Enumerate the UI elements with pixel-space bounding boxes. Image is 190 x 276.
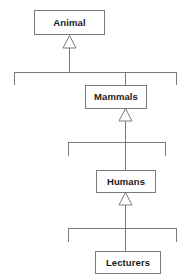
connector-bracket-humans-children: [69, 229, 177, 243]
class-label-animal: Animal: [53, 18, 85, 28]
class-box-mammals[interactable]: Mammals: [85, 85, 147, 109]
class-box-animal[interactable]: Animal: [34, 10, 105, 35]
inheritance-arrowhead-animal: [63, 36, 76, 49]
generalization-mammals-to-animal: [15, 36, 177, 86]
generalization-lecturers-to-humans: [69, 193, 177, 252]
class-box-lecturers[interactable]: Lecturers: [95, 251, 161, 274]
generalization-humans-to-mammals: [69, 109, 166, 171]
class-label-humans: Humans: [107, 177, 145, 187]
diagram-connector-layer: [0, 0, 190, 276]
connector-bracket-animal-children: [15, 73, 177, 86]
class-box-humans[interactable]: Humans: [96, 170, 156, 193]
inheritance-arrowhead-mammals: [119, 109, 132, 122]
class-label-lecturers: Lecturers: [106, 258, 150, 268]
class-label-mammals: Mammals: [94, 92, 138, 102]
uml-inheritance-diagram: Animal Mammals Humans Lecturers: [0, 0, 190, 276]
connector-bracket-mammals-children: [69, 143, 166, 157]
inheritance-arrowhead-humans: [119, 193, 132, 206]
